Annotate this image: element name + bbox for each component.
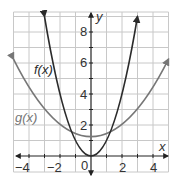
g-label: g(x) <box>15 110 37 125</box>
graph: −4 −2 0 2 4 2 4 6 8 y x f(x) g(x) <box>0 0 178 180</box>
y-tick-6: 6 <box>80 55 87 70</box>
x-tick-neg2: −2 <box>47 160 62 175</box>
origin-label: 0 <box>81 158 88 173</box>
x-tick-neg4: −4 <box>15 160 30 175</box>
y-tick-2: 2 <box>80 118 87 133</box>
y-tick-4: 4 <box>80 87 87 102</box>
x-tick-4: 4 <box>150 160 157 175</box>
f-label: f(x) <box>34 62 53 77</box>
y-tick-8: 8 <box>80 24 87 39</box>
x-tick-2: 2 <box>119 160 126 175</box>
x-axis-label: x <box>158 139 166 154</box>
